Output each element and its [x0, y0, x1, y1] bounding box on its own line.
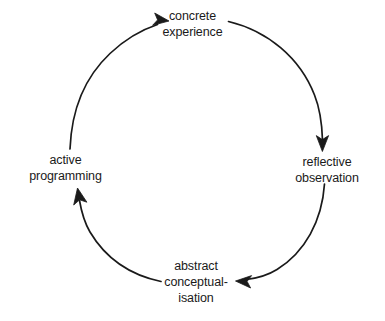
node-abstract-conceptualisation: abstract conceptual- isation: [131, 258, 261, 306]
node-reflective-observation: reflective observation: [262, 154, 385, 186]
node-label-line: concrete: [0, 8, 385, 24]
node-label-line: conceptual-: [131, 274, 261, 290]
node-active-programming: active programming: [0, 152, 131, 184]
node-label-line: isation: [131, 290, 261, 306]
node-label-line: reflective: [262, 154, 385, 170]
node-concrete-experience: concrete experience: [0, 8, 385, 40]
arrow-concrete-to-reflective: [229, 22, 329, 152]
cycle-diagram: concrete experience reflective observati…: [0, 0, 385, 321]
node-label-line: abstract: [131, 258, 261, 274]
node-label-line: active: [0, 152, 131, 168]
node-label-line: experience: [0, 24, 385, 40]
node-label-line: observation: [262, 170, 385, 186]
node-label-line: programming: [0, 168, 131, 184]
